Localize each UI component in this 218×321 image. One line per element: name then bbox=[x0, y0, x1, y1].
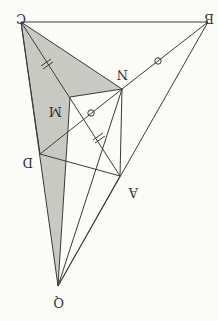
label-b: B bbox=[204, 11, 214, 26]
label-m: M bbox=[49, 104, 62, 119]
label-q: Q bbox=[53, 295, 64, 310]
label-a: A bbox=[128, 185, 139, 200]
geometry-diagram: C B N M D A Q bbox=[0, 0, 218, 321]
label-c: C bbox=[16, 11, 26, 26]
label-d: D bbox=[23, 155, 33, 170]
label-n: N bbox=[117, 67, 128, 82]
